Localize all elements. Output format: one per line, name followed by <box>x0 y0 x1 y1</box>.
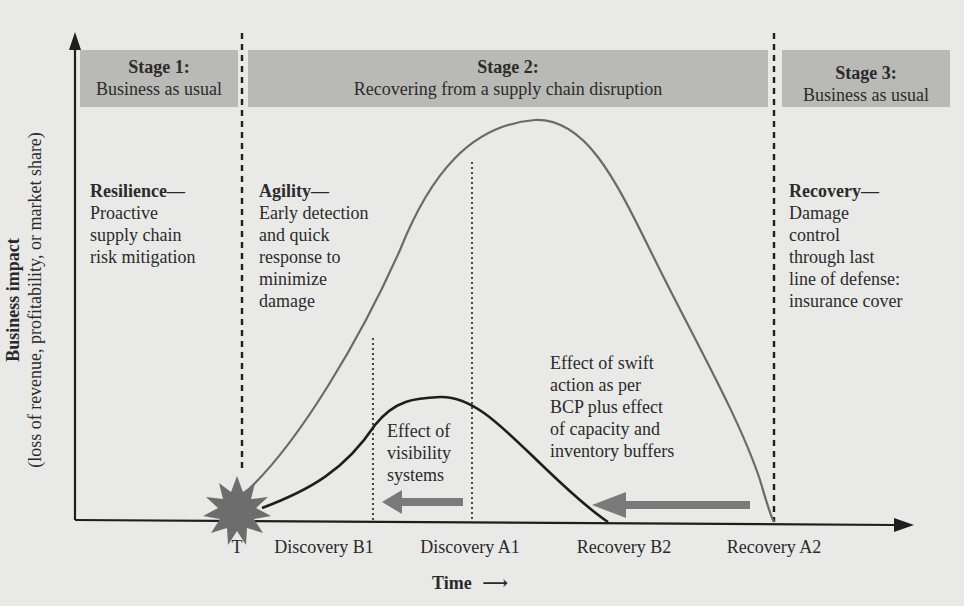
x-axis-line <box>75 520 895 525</box>
swift-action-effect-arrow-icon <box>592 492 750 518</box>
resilience-heading: Resilience— <box>90 180 196 202</box>
stage-3-label: Stage 3: Business as usual <box>782 62 950 106</box>
stage-3-subtitle: Business as usual <box>782 84 950 106</box>
recovery-line: through last <box>789 246 902 268</box>
agility-annotation: Agility— Early detection and quick respo… <box>259 180 368 312</box>
resilience-line: supply chain <box>90 224 196 246</box>
stage-2-label: Stage 2: Recovering from a supply chain … <box>248 56 768 100</box>
supply-chain-disruption-diagram: Stage 1: Business as usual Stage 2: Reco… <box>0 0 964 606</box>
recovery-line: line of defense: <box>789 268 902 290</box>
disruption-starburst-icon <box>203 476 271 545</box>
y-axis-label-line1: Business impact <box>2 132 24 468</box>
x-tick-recovery-a2: Recovery A2 <box>727 537 821 558</box>
resilience-line: Proactive <box>90 202 196 224</box>
swift-action-line: inventory buffers <box>550 440 674 462</box>
x-tick-discovery-a1: Discovery A1 <box>420 537 519 558</box>
y-axis-label-line2: (loss of revenue, profitability, or mark… <box>24 132 46 468</box>
agility-line: response to <box>259 246 368 268</box>
x-tick-recovery-b2: Recovery B2 <box>577 537 671 558</box>
swift-action-line: Effect of swift <box>550 352 674 374</box>
recovery-line: control <box>789 224 902 246</box>
swift-action-line: action as per <box>550 374 674 396</box>
swift-action-annotation: Effect of swift action as per BCP plus e… <box>550 352 674 462</box>
agility-line: and quick <box>259 224 368 246</box>
x-axis-label-text: Time <box>432 573 472 593</box>
visibility-effect-arrow-icon <box>382 490 463 514</box>
stage-2-title: Stage 2: <box>248 56 768 78</box>
agility-line: damage <box>259 290 368 312</box>
x-axis-label: Time ⟶ <box>432 572 508 594</box>
visibility-line: Effect of <box>387 420 451 442</box>
stage-1-label: Stage 1: Business as usual <box>80 56 238 100</box>
visibility-line: visibility <box>387 442 451 464</box>
x-axis-arrowhead-icon <box>894 518 914 532</box>
y-axis-label: Business impact (loss of revenue, profit… <box>2 132 46 468</box>
stage-1-title: Stage 1: <box>80 56 238 78</box>
stage-1-subtitle: Business as usual <box>80 78 238 100</box>
agility-line: Early detection <box>259 202 368 224</box>
x-tick-discovery-b1: Discovery B1 <box>274 537 373 558</box>
agility-line: minimize <box>259 268 368 290</box>
x-axis-label-arrow-icon: ⟶ <box>482 573 508 593</box>
visibility-annotation: Effect of visibility systems <box>387 420 451 486</box>
agility-heading: Agility— <box>259 180 368 202</box>
recovery-line: Damage <box>789 202 902 224</box>
swift-action-line: BCP plus effect <box>550 396 674 418</box>
resilience-annotation: Resilience— Proactive supply chain risk … <box>90 180 196 268</box>
recovery-line: insurance cover <box>789 290 902 312</box>
y-axis-arrowhead-icon <box>69 32 81 50</box>
x-tick-t: T <box>232 537 243 558</box>
stage-2-subtitle: Recovering from a supply chain disruptio… <box>248 78 768 100</box>
recovery-heading: Recovery— <box>789 180 902 202</box>
stage-3-title: Stage 3: <box>782 62 950 84</box>
swift-action-line: of capacity and <box>550 418 674 440</box>
visibility-line: systems <box>387 464 451 486</box>
resilience-line: risk mitigation <box>90 246 196 268</box>
recovery-annotation: Recovery— Damage control through last li… <box>789 180 902 312</box>
